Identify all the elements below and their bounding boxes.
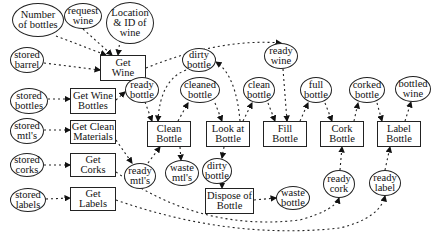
edge-dispose-to-wastebottle bbox=[254, 198, 276, 200]
data-stored-labels: stored labels bbox=[10, 188, 46, 212]
data-ready-bottle: ready bottle bbox=[125, 77, 159, 103]
edge-readycork-to-cork bbox=[340, 147, 342, 170]
edge-labels-to-getlabels bbox=[46, 198, 70, 199]
edge-getclean-to-readymtls bbox=[116, 140, 132, 163]
data-dirty-bottle-top: dirty bottle bbox=[182, 48, 216, 72]
edge-full-to-cork bbox=[325, 103, 332, 121]
data-ready-label: ready label bbox=[369, 170, 401, 196]
edge-number-to-getwine bbox=[56, 36, 106, 55]
edge-getwinebottles-to-readybottle bbox=[116, 92, 125, 100]
edge-fill-to-full bbox=[300, 103, 308, 121]
process-get-corks: Get Corks bbox=[70, 153, 116, 177]
data-cleaned-bottle: cleaned bottle bbox=[180, 77, 220, 103]
data-stored-corks: stored corks bbox=[10, 153, 44, 177]
edge-readywine-to-fill bbox=[283, 69, 287, 121]
edge-request-to-getwine bbox=[83, 29, 112, 55]
process-get-clean-materials: Get Clean Materials bbox=[70, 120, 116, 144]
process-look-at-bottle: Look at Bottle bbox=[206, 121, 250, 147]
data-request-wine: request wine bbox=[64, 3, 102, 29]
data-ready-wine: ready wine bbox=[264, 43, 298, 69]
edge-cleaned-to-look bbox=[215, 103, 222, 121]
data-ready-cork: ready cork bbox=[323, 170, 355, 198]
edge-corked-to-label bbox=[377, 103, 382, 121]
edge-readymtls-to-clean bbox=[148, 147, 160, 163]
edge-readylabel-to-label bbox=[385, 147, 390, 170]
data-stored-mtls: stored mtl's bbox=[10, 118, 44, 144]
edge-readybottle-to-clean bbox=[145, 102, 152, 121]
data-stored-bottles: stored bottles bbox=[10, 88, 48, 114]
process-fill-bottle: Fill Bottle bbox=[263, 121, 307, 147]
edge-clean-to-cleaned bbox=[178, 103, 188, 121]
edge-label-to-bottledwine bbox=[405, 102, 411, 121]
data-corked-bottle: corked bottle bbox=[349, 77, 385, 103]
data-ready-mtls: ready mtl's bbox=[124, 163, 156, 189]
edge-clean-to-wastemtls bbox=[180, 147, 181, 160]
process-get-wine-bottles: Get Wine Bottles bbox=[70, 88, 116, 114]
data-full-bottle: full bottle bbox=[300, 77, 332, 103]
edge-cleandata-to-fill bbox=[268, 103, 275, 121]
edge-look-to-cleandata bbox=[243, 103, 252, 121]
edge-cork-to-corked bbox=[354, 103, 358, 121]
data-number-of-bottles: Number of bottles bbox=[12, 3, 64, 37]
process-label-bottle: Label Bottle bbox=[377, 121, 421, 147]
edge-look-to-dirtymid bbox=[222, 147, 224, 158]
data-location-id-wine: Location & ID of wine bbox=[106, 2, 154, 44]
data-waste-mtls: waste mtl's bbox=[165, 160, 199, 186]
data-waste-bottle: waste bottle bbox=[276, 186, 310, 210]
data-stored-barrel: stored barrel bbox=[10, 47, 44, 73]
process-get-labels: Get Labels bbox=[70, 187, 116, 211]
edge-barrel-to-getwine bbox=[44, 63, 100, 70]
process-cork-bottle: Cork Bottle bbox=[320, 121, 364, 147]
process-dispose-of-bottle: Dispose of Bottle bbox=[205, 188, 254, 214]
data-clean-bottle-data: clean bottle bbox=[243, 77, 275, 103]
data-bottled-wine: bottled wine bbox=[395, 76, 431, 102]
process-clean-bottle: Clean Bottle bbox=[147, 121, 191, 147]
data-dirty-bottle-mid: dirty bottle bbox=[202, 158, 232, 184]
